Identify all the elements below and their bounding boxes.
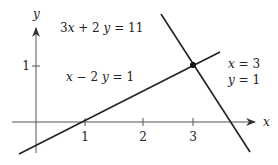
graph-canvas: 1 2 3 1 x y 3x + 2 y = 11 x − 2 y = 1 x … <box>0 0 278 165</box>
y-axis-label: y <box>32 7 40 21</box>
x-tick-label-3: 3 <box>189 130 197 144</box>
equation-label-x-minus-2y: x − 2 y = 1 <box>66 70 134 84</box>
solution-y: y = 1 <box>227 73 260 87</box>
intersection-point <box>190 62 196 68</box>
y-tick-label-1: 1 <box>22 59 30 73</box>
solution-x: x = 3 <box>228 57 260 71</box>
x-tick-label-2: 2 <box>139 130 147 144</box>
equation-label-3x-plus-2y: 3x + 2 y = 11 <box>60 21 143 35</box>
x-tick-label-1: 1 <box>81 130 89 144</box>
x-axis-label: x <box>263 115 270 129</box>
